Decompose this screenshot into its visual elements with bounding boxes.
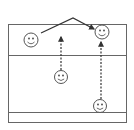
- player-p3: [55, 71, 68, 84]
- player-p4: [94, 100, 107, 113]
- smiley-icon: [95, 25, 109, 39]
- player-p1: [24, 33, 38, 47]
- smiley-icon: [24, 33, 38, 47]
- smiley-icon: [55, 71, 68, 84]
- solid-route-arrow: [41, 18, 94, 33]
- smiley-icon: [94, 100, 107, 113]
- routes: [41, 18, 101, 99]
- play-diagram: [0, 0, 134, 130]
- player-p2: [95, 25, 109, 39]
